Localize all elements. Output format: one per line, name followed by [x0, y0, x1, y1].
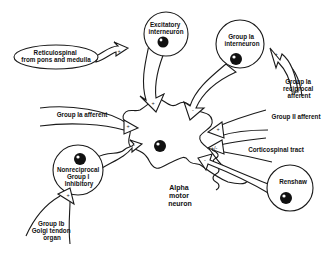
group-ib-sign: + [66, 192, 69, 198]
group-ia-afferent-sign: + [126, 123, 129, 129]
reticulospinal-sign: + [117, 48, 120, 54]
alpha-motor-neuron-label: Alpha motor neuron [168, 184, 192, 207]
motor-neuron-diagram: Alpha motor neuron Excitatory interneuro… [0, 0, 332, 257]
excitatory-interneuron-label: Excitatory interneuron [149, 21, 184, 35]
group-ia-inhibit-sign: - [192, 107, 194, 113]
corticospinal-sign: +/- [211, 145, 218, 151]
group-ia-interneuron-label: Group Ia interneuron [225, 33, 260, 47]
group-ia-afferent-label: Group Ia afferent [57, 111, 109, 119]
group-ib-label: Group Ib Golgi tendon organ [32, 220, 73, 242]
nonreciprocal-sign: - [133, 142, 135, 148]
group-ii-afferent-input [208, 110, 268, 138]
renshaw-sign: - [204, 157, 206, 163]
group-ia-reciprocal-label: Group Ia reciprocal afferent [283, 78, 315, 99]
group-ii-afferent-sign: + [216, 126, 219, 132]
corticospinal-label: Corticospinal tract [248, 146, 305, 154]
excitatory-sign: + [151, 100, 154, 106]
group-ii-afferent-label: Group II afferent [272, 113, 322, 121]
group-ia-reciprocal-sign: + [274, 51, 277, 57]
renshaw-label: Renshaw [279, 178, 307, 185]
